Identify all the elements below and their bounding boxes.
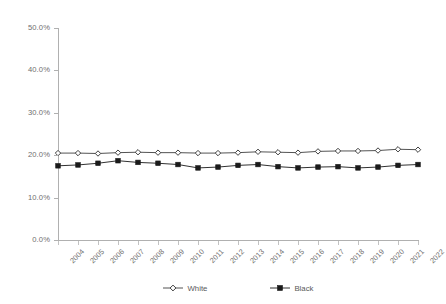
data-point-marker	[295, 150, 300, 155]
data-point-marker	[195, 150, 200, 155]
series-black	[56, 158, 421, 170]
x-tick-mark	[258, 241, 259, 245]
legend-item-black[interactable]: Black	[269, 283, 313, 293]
data-point-marker	[116, 158, 121, 163]
data-point-marker	[135, 150, 140, 155]
data-point-marker	[275, 150, 280, 155]
x-tick-mark	[78, 241, 79, 245]
data-point-marker	[196, 166, 201, 171]
x-tick-mark	[278, 241, 279, 245]
data-point-marker	[75, 150, 80, 155]
y-tick-mark	[54, 113, 58, 114]
data-point-marker	[335, 148, 340, 153]
legend-label: Black	[294, 284, 313, 293]
data-point-marker	[235, 150, 240, 155]
data-point-marker	[76, 163, 81, 168]
x-tick-mark	[418, 241, 419, 245]
data-point-marker	[336, 164, 341, 169]
filled-square-marker-icon	[269, 283, 291, 293]
legend-label: White	[187, 284, 207, 293]
x-tick-mark	[318, 241, 319, 245]
data-point-marker	[415, 147, 420, 152]
data-point-marker	[316, 165, 321, 170]
series-white	[55, 147, 420, 157]
x-tick-mark	[158, 241, 159, 245]
data-point-marker	[376, 165, 381, 170]
x-tick-mark	[338, 241, 339, 245]
open-diamond-marker-icon	[162, 283, 184, 293]
x-tick-mark	[118, 241, 119, 245]
data-point-marker	[396, 163, 401, 168]
data-point-marker	[395, 147, 400, 152]
data-point-marker	[171, 285, 177, 291]
data-point-marker	[256, 162, 261, 167]
x-tick-mark	[398, 241, 399, 245]
data-point-marker	[115, 150, 120, 155]
data-point-marker	[176, 162, 181, 167]
data-point-marker	[95, 151, 100, 156]
y-tick-mark	[54, 70, 58, 71]
x-tick-mark	[378, 241, 379, 245]
data-point-marker	[296, 166, 301, 171]
chart-legend: WhiteBlack	[58, 281, 418, 295]
data-point-marker	[355, 148, 360, 153]
x-tick-mark	[138, 241, 139, 245]
data-point-marker	[315, 149, 320, 154]
data-point-marker	[255, 149, 260, 154]
data-point-marker	[136, 160, 141, 165]
data-point-marker	[416, 162, 421, 167]
x-tick-mark	[58, 241, 59, 245]
legend-item-white[interactable]: White	[162, 283, 207, 293]
data-point-marker	[356, 166, 361, 171]
data-point-marker	[175, 150, 180, 155]
data-point-marker	[216, 165, 221, 170]
data-point-marker	[156, 161, 161, 166]
x-tick-mark	[358, 241, 359, 245]
data-point-marker	[96, 161, 101, 166]
x-tick-mark	[298, 241, 299, 245]
data-point-marker	[155, 150, 160, 155]
data-point-marker	[236, 163, 241, 168]
x-tick-mark	[218, 241, 219, 245]
x-tick-mark	[238, 241, 239, 245]
x-tick-mark	[178, 241, 179, 245]
data-point-marker	[375, 148, 380, 153]
y-tick-mark	[54, 28, 58, 29]
y-tick-mark	[54, 155, 58, 156]
data-point-marker	[276, 164, 281, 169]
data-point-marker	[56, 164, 61, 169]
x-tick-mark	[198, 241, 199, 245]
data-point-marker	[215, 150, 220, 155]
data-point-marker	[278, 286, 283, 291]
y-tick-mark	[54, 198, 58, 199]
x-tick-mark	[98, 241, 99, 245]
